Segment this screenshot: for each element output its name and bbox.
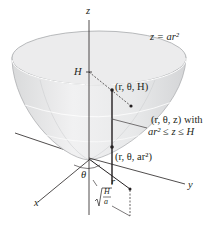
theta-label: θ [81, 170, 86, 181]
point-mid-label-line1: (r, θ, z) with [151, 115, 203, 126]
x-axis [38, 160, 89, 202]
theta-arc [74, 165, 100, 169]
point-top-label: (r, θ, H) [115, 82, 148, 93]
y-axis-label: y [188, 180, 193, 191]
sqrt-denominator: a [104, 198, 108, 206]
rim-point [129, 104, 132, 107]
surface-equation-label: z = ar² [150, 32, 179, 43]
point-bottom-label: (r, θ, ar²) [115, 152, 152, 163]
point-mid-label-line2: ar² ≤ z ≤ H [148, 127, 194, 138]
z-axis-label: z [86, 6, 90, 17]
x-axis-label: x [34, 198, 39, 209]
sqrt-numerator: H [104, 188, 110, 196]
sqrt-leader-top [93, 180, 97, 186]
point-top [110, 88, 114, 92]
paraboloid-diagram: z z = ar² H (r, θ, H) (r, θ, z) with ar²… [0, 0, 210, 225]
radius-label: r [111, 177, 115, 188]
height-label: H [74, 67, 82, 78]
sqrt-leader-bottom [112, 206, 130, 216]
point-bottom [110, 145, 114, 149]
